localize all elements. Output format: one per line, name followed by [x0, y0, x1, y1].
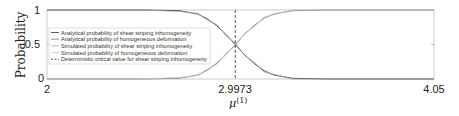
x-axis-label: μ(1)	[229, 96, 248, 110]
legend-item-5: Deterministic critical value for shear s…	[61, 56, 207, 62]
xtick-critical: 2.9973	[218, 83, 252, 95]
legend-item-2: Analytical probability of homogeneous de…	[61, 36, 186, 42]
xtick-4.05: 4.05	[423, 83, 444, 95]
y-axis-label: Probability	[14, 11, 28, 78]
legend-item-3: Simulated probability of shear striping …	[61, 43, 192, 49]
probability-chart: 1 0.5 0 2 2.9973 4.05 Probability μ(1) A…	[0, 0, 459, 116]
ytick-1: 1	[34, 4, 40, 16]
legend: Analytical probability of shear striping…	[49, 28, 210, 64]
xtick-2: 2	[44, 83, 50, 95]
legend-item-1: Analytical probability of shear striping…	[61, 30, 191, 36]
legend-item-4: Simulated probability of homogeneous def…	[61, 50, 187, 56]
